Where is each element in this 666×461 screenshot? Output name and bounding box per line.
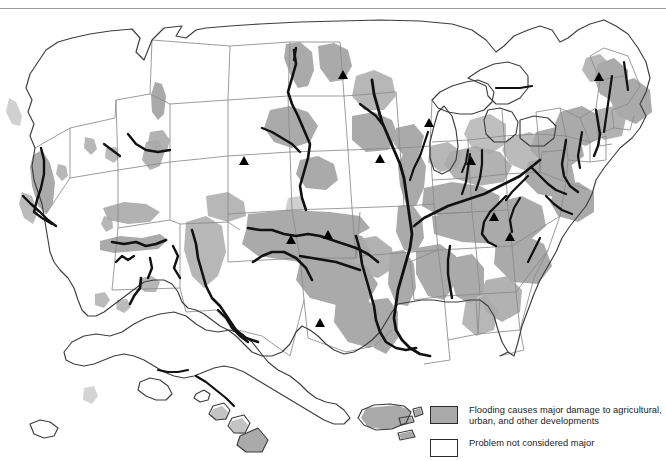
legend-item-not-major: Problem not considered major [430, 438, 666, 457]
legend-label-major-damage: Flooding causes major damage to agricult… [469, 405, 662, 428]
legend-label-not-major: Problem not considered major [469, 438, 594, 449]
legend-item-major-damage: Flooding causes major damage to agricult… [430, 405, 666, 428]
legend-swatch-major-damage [430, 406, 458, 424]
map-legend: Flooding causes major damage to agricult… [430, 405, 666, 461]
legend-swatch-not-major [430, 439, 458, 457]
